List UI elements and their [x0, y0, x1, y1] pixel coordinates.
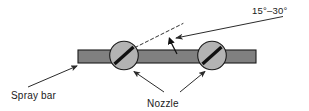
angle-label-leader-line — [176, 17, 283, 39]
nozzle-left — [110, 41, 139, 70]
nozzle-leader-line-right — [180, 72, 205, 93]
spray-bar-diagram: 15°–30° Spray bar Nozzle — [0, 0, 309, 111]
spray-bar-body — [78, 50, 256, 63]
spray-bar-label: Spray bar — [11, 90, 57, 101]
angle-range-label: 15°–30° — [252, 5, 287, 16]
nozzle-right — [198, 41, 227, 70]
diagram-canvas: 15°–30° Spray bar Nozzle — [0, 0, 309, 111]
nozzle-label: Nozzle — [147, 98, 179, 109]
nozzle-leader-line-left — [134, 72, 164, 93]
dashed-reference-line — [135, 24, 183, 48]
spray-bar-leader-line — [28, 66, 77, 87]
